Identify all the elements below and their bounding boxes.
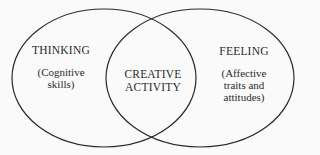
intersection-line: CREATIVE — [116, 68, 190, 81]
feeling-subtitle-line: (Affective — [212, 67, 276, 79]
thinking-subtitle-line: (Cognitive — [30, 66, 92, 78]
feeling-title: FEELING — [212, 45, 276, 58]
feeling-subtitle: (Affective traits and attitudes) — [212, 67, 276, 103]
thinking-subtitle-line: skills) — [30, 78, 92, 90]
thinking-title: THINKING — [30, 44, 92, 57]
intersection-line: ACTIVITY — [116, 81, 190, 94]
thinking-subtitle: (Cognitive skills) — [30, 66, 92, 90]
feeling-subtitle-line: traits and — [212, 79, 276, 91]
feeling-subtitle-line: attitudes) — [212, 91, 276, 103]
intersection-title: CREATIVE ACTIVITY — [116, 68, 190, 94]
